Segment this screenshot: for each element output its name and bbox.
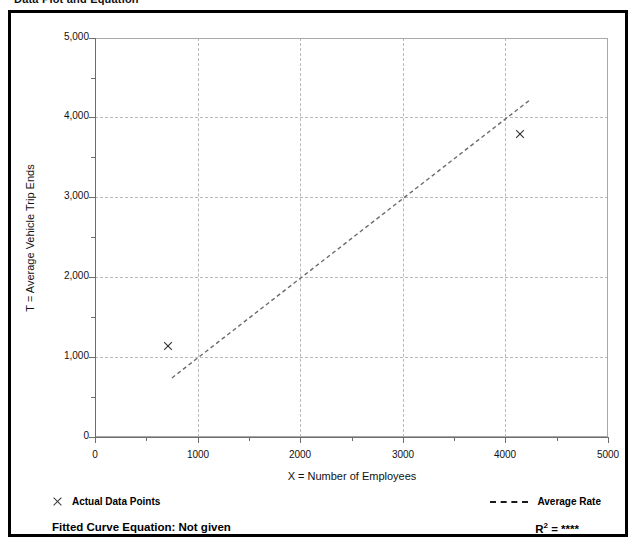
legend-entry-average-rate: Average Rate — [490, 496, 601, 507]
x-tick-minor-1500 — [249, 437, 250, 441]
y-tick-minor-1500 — [91, 317, 95, 318]
y-tick-1000 — [89, 357, 95, 358]
equation-row: Fitted Curve Equation: Not given R2 = **… — [0, 521, 639, 543]
y-axis-line — [95, 38, 96, 438]
x-tick-minor-3500 — [454, 437, 455, 441]
data-point-marker — [514, 128, 525, 139]
data-point-marker — [163, 341, 174, 352]
y-tick-5000 — [89, 38, 95, 39]
r-squared-prefix: R — [535, 523, 543, 535]
legend-entry-actual-points: Actual Data Points — [52, 496, 160, 507]
chart-legend: Actual Data Points Average Rate — [0, 496, 639, 518]
x-axis-label-4000: 4000 — [494, 449, 516, 460]
y-tick-minor-2500 — [91, 237, 95, 238]
x-tick-minor-500 — [146, 437, 147, 441]
x-axis-label-5000: 5000 — [597, 449, 619, 460]
x-tick-1000 — [198, 437, 199, 443]
y-tick-minor-4500 — [91, 78, 95, 79]
y-axis-title: T = Average Vehicle Trip Ends — [24, 164, 36, 311]
y-tick-4000 — [89, 117, 95, 118]
plot-area — [95, 38, 608, 437]
legend-label-average-rate: Average Rate — [537, 496, 601, 507]
y-tick-3000 — [89, 197, 95, 198]
r-squared-superscript: 2 — [544, 521, 548, 530]
y-tick-2000 — [89, 277, 95, 278]
dashed-line-icon — [490, 501, 528, 503]
x-marker-icon — [52, 496, 63, 507]
chart-plot-wrapper: 5,000 4,000 3,000 2,000 1,000 0 0 1000 2… — [0, 0, 639, 545]
x-tick-0 — [95, 437, 96, 443]
r-squared-value: R2 = **** — [535, 521, 579, 535]
r-squared-number: = **** — [551, 523, 579, 535]
y-tick-minor-3500 — [91, 157, 95, 158]
x-axis-label-1000: 1000 — [187, 449, 209, 460]
x-tick-5000 — [608, 437, 609, 443]
x-tick-3000 — [403, 437, 404, 443]
x-tick-minor-4500 — [557, 437, 558, 441]
x-tick-2000 — [300, 437, 301, 443]
x-tick-minor-2500 — [352, 437, 353, 441]
legend-label-actual-points: Actual Data Points — [72, 496, 160, 507]
x-axis-label-3000: 3000 — [392, 449, 414, 460]
x-axis-title: X = Number of Employees — [288, 470, 417, 482]
x-tick-4000 — [505, 437, 506, 443]
x-axis-label-2000: 2000 — [289, 449, 311, 460]
fitted-curve-equation: Fitted Curve Equation: Not given — [52, 521, 231, 533]
y-tick-minor-500 — [91, 397, 95, 398]
x-axis-label-0: 0 — [92, 449, 98, 460]
